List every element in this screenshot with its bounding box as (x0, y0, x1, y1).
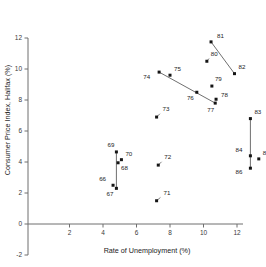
x-tick-label: 10 (200, 229, 208, 236)
data-point-label: 72 (164, 153, 171, 160)
data-point (195, 91, 198, 94)
x-axis-ticks: 24681012 (68, 224, 241, 236)
data-point (117, 161, 120, 164)
x-tick-label: 4 (101, 229, 105, 236)
data-point-label: 69 (108, 141, 115, 148)
x-tick-label: 6 (135, 229, 139, 236)
y-tick-label: 10 (15, 65, 23, 72)
data-point-label: 68 (121, 164, 128, 171)
data-point (158, 71, 161, 74)
x-tick-label: 2 (68, 229, 72, 236)
y-tick-label: 4 (18, 158, 22, 165)
y-tick-label: 0 (18, 220, 22, 227)
data-point (233, 72, 236, 75)
y-axis-title: Consumer Price Index, Halifax (%) (3, 65, 12, 175)
data-point-label: 66 (99, 175, 106, 182)
data-point-label: 85 (263, 149, 266, 156)
x-tick-label: 8 (168, 229, 172, 236)
y-tick-label: 6 (18, 127, 22, 134)
data-point (257, 157, 260, 160)
data-point (215, 98, 218, 101)
data-point (205, 60, 208, 63)
data-point (155, 199, 158, 202)
y-tick-label: 12 (15, 34, 23, 41)
connector-line (211, 42, 234, 74)
label-leader-lines (157, 59, 209, 201)
axes-group (28, 38, 243, 255)
y-tick-label: -2 (16, 251, 22, 258)
data-point (112, 184, 115, 187)
data-point-label: 84 (236, 146, 243, 153)
scatter-chart: 24681012 -2024681012 6667686970717273747… (0, 0, 266, 267)
data-point-label: 76 (187, 94, 194, 101)
data-point (249, 117, 252, 120)
data-point-label: 73 (163, 105, 170, 112)
y-tick-label: 2 (18, 189, 22, 196)
data-point-label: 82 (238, 63, 245, 70)
chart-canvas: 24681012 -2024681012 6667686970717273747… (0, 0, 266, 267)
data-point-label: 74 (143, 73, 150, 80)
data-point (115, 150, 118, 153)
data-point (120, 158, 123, 161)
data-point-label: 83 (254, 108, 261, 115)
data-point-label: 86 (236, 168, 243, 175)
x-tick-label: 12 (233, 229, 241, 236)
data-point (249, 167, 252, 170)
data-point (169, 74, 172, 77)
data-point (210, 40, 213, 43)
series-connector-lines (116, 42, 250, 188)
x-axis-title: Rate of Unemployment (%) (104, 246, 191, 255)
data-point-label: 79 (215, 75, 222, 82)
data-point (214, 102, 217, 105)
data-point-label: 75 (174, 65, 181, 72)
data-point-label: 81 (217, 32, 224, 39)
data-point-labels: 6667686970717273747576777879808182838485… (99, 32, 266, 197)
data-point-label: 67 (107, 190, 114, 197)
data-point-label: 78 (221, 91, 228, 98)
data-point-label: 70 (125, 150, 132, 157)
data-point (249, 154, 252, 157)
data-point (115, 187, 118, 190)
data-point (157, 164, 160, 167)
data-point (210, 85, 213, 88)
data-point (155, 116, 158, 119)
data-point-label: 77 (207, 106, 214, 113)
data-point-label: 80 (211, 50, 218, 57)
y-axis-ticks: -2024681012 (15, 34, 28, 258)
y-tick-label: 8 (18, 96, 22, 103)
data-point-label: 71 (164, 189, 171, 196)
